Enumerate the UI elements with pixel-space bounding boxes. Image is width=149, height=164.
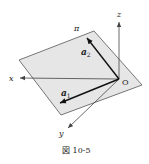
figure-10-5: x y z O π a1 a2 図 10-5 — [0, 0, 149, 164]
plane-pi — [19, 31, 142, 115]
plane-label: π — [73, 24, 80, 33]
y-axis-label: y — [58, 129, 64, 138]
x-axis-label: x — [9, 74, 14, 83]
figure-caption: 図 10-5 — [62, 146, 91, 155]
origin-label: O — [122, 78, 129, 87]
z-axis-label: z — [116, 10, 122, 19]
